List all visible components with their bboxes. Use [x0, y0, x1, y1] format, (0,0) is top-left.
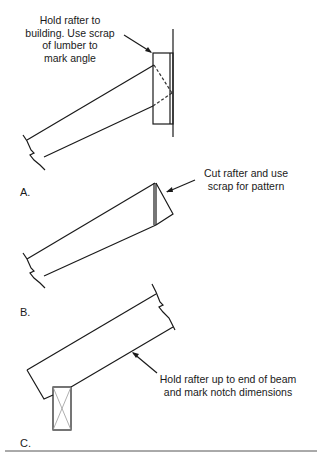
rafter-top-edge	[27, 294, 156, 370]
annotation-b: Cut rafter and use scrap for pattern	[196, 167, 296, 192]
marked-angle-lower	[153, 93, 172, 106]
break-line	[152, 284, 175, 330]
panel-label-c: C.	[20, 437, 31, 449]
rafter-top-edge	[27, 65, 154, 140]
rafter-bottom-edge	[44, 106, 153, 157]
break-line	[23, 253, 45, 288]
break-line	[23, 135, 45, 170]
panel-b-drawing	[23, 180, 195, 288]
annotation-a: Hold rafter to building. Use scrap of lu…	[14, 14, 126, 64]
annotation-c: Hold rafter up to end of beam and mark n…	[148, 373, 308, 398]
rafter-top-edge	[27, 183, 155, 259]
panel-c-drawing	[27, 284, 175, 430]
rafter-diagram	[0, 0, 320, 469]
rafter-end-notch	[27, 370, 53, 399]
panel-label-b: B.	[20, 306, 30, 318]
marked-angle-upper	[154, 65, 172, 93]
rafter-bottom-edge	[44, 225, 156, 276]
panel-label-a: A.	[20, 186, 30, 198]
